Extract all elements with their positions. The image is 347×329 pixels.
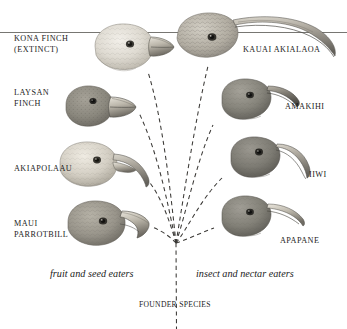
- bird-label-amakihi: AMAKIHI: [285, 102, 325, 113]
- caption-fruit-seed-eaters: fruit and seed eaters: [50, 268, 133, 279]
- bird-label-iiwi: IIWI: [309, 170, 327, 181]
- bird-label-maui-parrotbill: MAUI PARROTBILL: [14, 219, 68, 240]
- bird-label-laysan-finch: LAYSAN FINCH: [14, 88, 49, 109]
- caption-insect-nectar-eaters: insect and nectar eaters: [196, 268, 294, 279]
- founder-species-label: FOUNDER SPECIES: [139, 300, 211, 309]
- bird-label-kauai-akialaoa: KAUAI AKIALAOA: [243, 45, 320, 56]
- figure-labels: KONA FINCH (EXTINCT) LAYSAN FINCH AKIAPO…: [0, 0, 347, 329]
- bird-label-akiapolaau: AKIAPOLAAU: [14, 164, 72, 175]
- bird-label-kona-finch: KONA FINCH (EXTINCT): [14, 34, 68, 55]
- bird-label-apapane: APAPANE: [280, 236, 319, 247]
- adaptive-radiation-figure: KONA FINCH (EXTINCT) LAYSAN FINCH AKIAPO…: [0, 0, 347, 329]
